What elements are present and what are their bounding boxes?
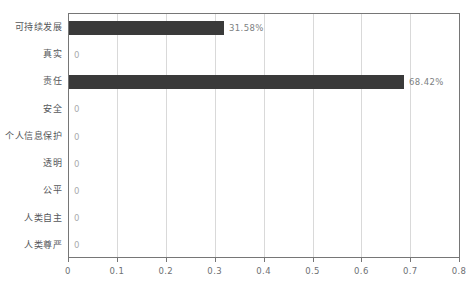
value-label: 0 [74, 186, 80, 196]
bar [69, 21, 224, 35]
x-tick-label: 0.5 [305, 266, 320, 276]
x-tick-mark [264, 258, 265, 262]
table-row: 人类尊严 0 [0, 232, 474, 259]
table-row: 人类自主 0 [0, 205, 474, 232]
x-axis: 0 0.1 0.2 0.3 0.4 0.5 0.6 0.7 0.8 [68, 258, 460, 284]
value-label: 0 [74, 213, 80, 223]
category-label: 透明 [0, 150, 62, 177]
value-label: 31.58% [229, 23, 264, 33]
x-tick-mark [361, 258, 362, 262]
value-label: 0 [74, 104, 80, 114]
x-tick-label: 0.6 [354, 266, 369, 276]
category-label: 安全 [0, 96, 62, 123]
table-row: 可持续发展 31.58% [0, 14, 474, 41]
x-tick-mark [410, 258, 411, 262]
value-label: 0 [74, 240, 80, 250]
category-label: 人类自主 [0, 205, 62, 232]
x-tick-label: 0 [65, 266, 71, 276]
x-tick-mark [117, 258, 118, 262]
horizontal-bar-chart: 可持续发展 31.58% 真实 0 责任 68.42% 安全 0 个人信息保护 … [0, 0, 474, 289]
x-tick-mark [215, 258, 216, 262]
x-tick-label: 0.2 [158, 266, 173, 276]
table-row: 责任 68.42% [0, 68, 474, 95]
category-label: 可持续发展 [0, 14, 62, 41]
value-label: 68.42% [409, 77, 444, 87]
x-tick-label: 0.7 [403, 266, 418, 276]
table-row: 透明 0 [0, 150, 474, 177]
bar [69, 75, 404, 89]
table-row: 安全 0 [0, 96, 474, 123]
x-tick-mark [459, 258, 460, 262]
table-row: 公平 0 [0, 177, 474, 204]
category-label: 个人信息保护 [0, 123, 62, 150]
value-label: 0 [74, 132, 80, 142]
table-row: 真实 0 [0, 41, 474, 68]
x-tick-label: 0.8 [452, 266, 467, 276]
x-tick-label: 0.1 [110, 266, 125, 276]
x-tick-label: 0.4 [256, 266, 271, 276]
category-label: 公平 [0, 177, 62, 204]
table-row: 个人信息保护 0 [0, 123, 474, 150]
value-label: 0 [74, 50, 80, 60]
x-tick-mark [68, 258, 69, 262]
x-tick-mark [313, 258, 314, 262]
bar-rows: 可持续发展 31.58% 真实 0 责任 68.42% 安全 0 个人信息保护 … [0, 0, 474, 289]
category-label: 真实 [0, 41, 62, 68]
x-tick-label: 0.3 [207, 266, 222, 276]
x-tick-mark [166, 258, 167, 262]
category-label: 人类尊严 [0, 232, 62, 259]
value-label: 0 [74, 159, 80, 169]
category-label: 责任 [0, 68, 62, 95]
